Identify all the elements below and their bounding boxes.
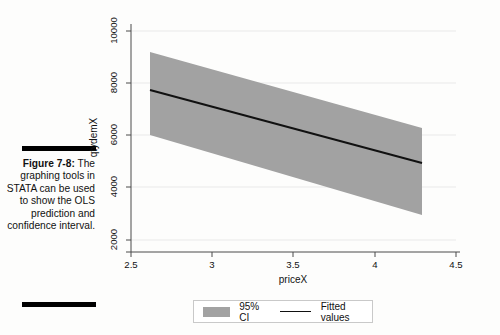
legend-line-sample-fitted [280, 311, 311, 312]
y-tick-label-6000: 6000 [108, 118, 119, 152]
x-tick-label-4-5: 4.5 [436, 259, 476, 270]
x-tick-label-2-5: 2.5 [111, 259, 151, 270]
chart-legend: 95% CI Fitted values [193, 300, 373, 323]
y-tick-label-8000: 8000 [108, 66, 119, 100]
regression-chart: 10000 8000 6000 4000 2000 qtydemX 2.5 3 … [0, 0, 500, 335]
y-tick-label-4000: 4000 [108, 170, 119, 204]
x-tick-label-3: 3 [192, 259, 232, 270]
y-tick-label-10000: 10000 [108, 11, 119, 51]
x-tick-label-4: 4 [355, 259, 395, 270]
legend-label-ci: 95% CI [239, 301, 269, 323]
x-tick-label-3-5: 3.5 [273, 259, 313, 270]
legend-swatch-ci [203, 307, 230, 317]
figure-page: Figure 7-8: The graphing tools in STATA … [0, 0, 500, 335]
y-tick-label-2000: 2000 [108, 223, 119, 257]
y-axis-label: qtydemX [88, 106, 99, 170]
plot-canvas [0, 0, 500, 335]
legend-label-fitted: Fitted values [321, 301, 372, 323]
confidence-interval-band [150, 52, 422, 215]
x-axis-label: priceX [253, 274, 333, 285]
